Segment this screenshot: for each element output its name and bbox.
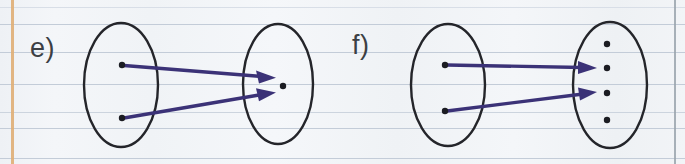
arrow-e-2 <box>124 88 276 118</box>
domain-ellipse-f <box>411 24 485 146</box>
arrow-e-1 <box>124 66 276 84</box>
codomain-element-f-1 <box>604 41 610 47</box>
codomain-element-f-4 <box>604 117 610 123</box>
codomain-element-e-1 <box>280 83 286 89</box>
codomain-element-f-3 <box>604 90 610 96</box>
domain-element-f-1 <box>442 62 448 68</box>
codomain-element-f-2 <box>604 65 610 71</box>
codomain-ellipse-e <box>243 24 313 144</box>
mapping-diagram-e <box>0 0 685 164</box>
domain-ellipse-e <box>84 23 158 147</box>
domain-element-f-2 <box>442 108 448 114</box>
notebook-page: e) f) <box>0 0 685 164</box>
codomain-ellipse-f <box>573 22 647 148</box>
domain-element-e-1 <box>119 62 125 68</box>
domain-element-e-2 <box>119 115 125 121</box>
